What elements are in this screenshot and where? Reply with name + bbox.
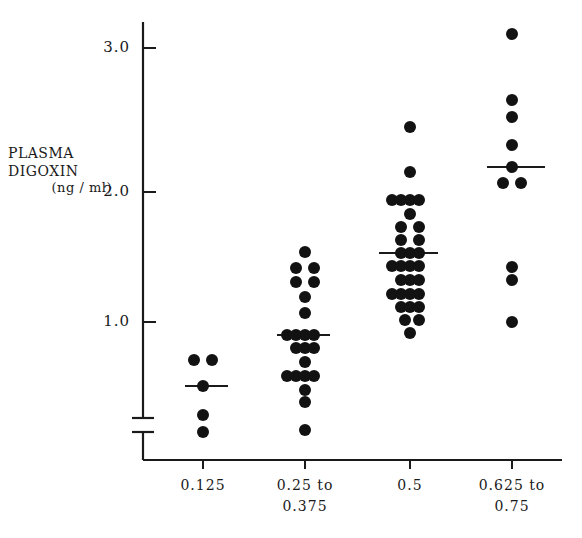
data-point (413, 274, 425, 286)
data-point (290, 276, 302, 288)
data-point (299, 396, 311, 408)
mean-lines-layer (185, 167, 545, 386)
data-point (506, 28, 518, 40)
data-point (308, 329, 320, 341)
data-point (506, 261, 518, 273)
data-point (308, 262, 320, 274)
data-point (299, 291, 311, 303)
data-point (404, 121, 416, 133)
data-point (506, 111, 518, 123)
data-point (506, 94, 518, 106)
data-point (308, 342, 320, 354)
axes-layer (132, 22, 562, 469)
data-point (404, 166, 416, 178)
data-point (395, 221, 407, 233)
data-point (404, 327, 416, 339)
data-point (413, 301, 425, 313)
data-point (497, 177, 509, 189)
data-point (197, 380, 209, 392)
data-point (506, 316, 518, 328)
data-point (413, 221, 425, 233)
data-point (413, 288, 425, 300)
data-point (206, 354, 218, 366)
data-point (299, 384, 311, 396)
data-point (413, 260, 425, 272)
data-point (197, 426, 209, 438)
data-point (506, 161, 518, 173)
data-point (290, 262, 302, 274)
digoxin-scatter-figure: PLASMA DIGOXIN (ng / ml) 3.0 2.0 1.0 0.1… (0, 0, 582, 538)
data-point (299, 424, 311, 436)
data-point (413, 314, 425, 326)
data-point (308, 370, 320, 382)
plot-canvas (0, 0, 582, 538)
data-point (299, 246, 311, 258)
data-point (188, 354, 200, 366)
data-point (413, 247, 425, 259)
data-point (413, 194, 425, 206)
data-point (413, 234, 425, 246)
data-point (404, 208, 416, 220)
data-point (399, 314, 411, 326)
data-point (299, 307, 311, 319)
data-point (506, 274, 518, 286)
data-point (515, 177, 527, 189)
data-point (197, 409, 209, 421)
data-points-layer (188, 28, 527, 438)
data-point (395, 234, 407, 246)
data-point (506, 139, 518, 151)
data-point (308, 276, 320, 288)
data-point (299, 356, 311, 368)
